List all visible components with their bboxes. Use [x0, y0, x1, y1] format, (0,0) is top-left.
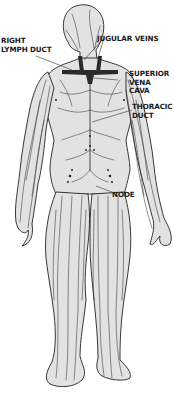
label-jugular-veins: JUGULAR VEINS	[97, 35, 158, 44]
body-silhouette	[15, 5, 171, 387]
lymphatic-system-figure	[0, 0, 174, 394]
label-right-lymph-duct: RIGHTLYMPH DUCT	[1, 37, 52, 54]
label-thoracic-duct: THORACICDUCT	[132, 103, 173, 120]
label-superior-vena-cava: SUPERIORVENACAVA	[129, 70, 169, 96]
label-node: NODE	[112, 191, 135, 200]
